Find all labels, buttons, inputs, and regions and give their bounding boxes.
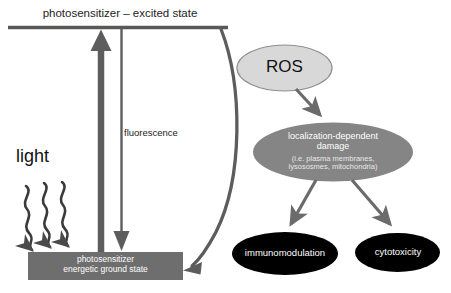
light-squiggle-3-icon (61, 182, 68, 246)
localization-damage-ellipse (253, 123, 413, 182)
immunomodulation-ellipse (232, 232, 338, 275)
light-squiggle-1-icon (25, 186, 32, 250)
excitation-arrow (91, 30, 112, 259)
relaxation-curve-arrow (183, 29, 237, 275)
ground-state-box (28, 252, 183, 280)
diagram-graphics (0, 0, 451, 293)
cytotoxicity-ellipse (355, 233, 440, 272)
diagram-canvas: photosensitizer – excited state light fl… (0, 0, 451, 293)
damage-to-immunomodulation-arrow (291, 180, 316, 224)
light-squiggle-2-icon (43, 183, 50, 247)
ros-ellipse (237, 45, 332, 91)
light-squiggle-arrows (25, 182, 68, 250)
damage-to-cytotoxicity-arrow (352, 180, 390, 224)
ros-to-damage-arrow (296, 89, 320, 115)
fluorescence-arrow (114, 29, 130, 251)
